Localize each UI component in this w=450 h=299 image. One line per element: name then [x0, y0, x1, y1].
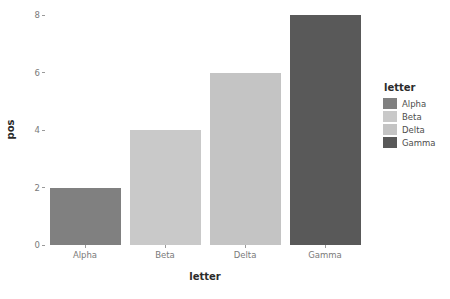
legend-swatch [383, 124, 397, 135]
y-axis-tick-label: 8 [34, 9, 40, 21]
bar [130, 130, 201, 245]
bar [210, 73, 281, 246]
y-axis-title-label: pos [6, 119, 17, 139]
bar [50, 188, 121, 246]
x-axis-tick-mark [325, 245, 326, 248]
x-axis-tick: Alpha [45, 245, 125, 260]
legend-items: AlphaBetaDeltaGamma [383, 97, 448, 149]
y-axis-tick: 8 [34, 9, 45, 21]
x-axis-tick-label: Alpha [45, 250, 125, 260]
y-axis-tick: 4 [34, 124, 45, 136]
x-axis-tick: Beta [125, 245, 205, 260]
bar-slot [210, 6, 281, 245]
legend-item: Gamma [383, 136, 448, 149]
bar-chart: pos 02468 AlphaBetaDeltaGamma letter let… [0, 0, 450, 299]
plot-area [45, 6, 365, 245]
bar-slot [290, 6, 361, 245]
legend-item-label: Gamma [402, 138, 436, 148]
x-axis-tick-mark [85, 245, 86, 248]
legend-title: letter [383, 82, 448, 93]
y-axis-tick: 2 [34, 182, 45, 194]
legend-swatch [383, 98, 397, 109]
y-axis-tick: 0 [34, 239, 45, 251]
x-axis: AlphaBetaDeltaGamma [45, 245, 365, 267]
y-axis-tick-label: 4 [34, 124, 40, 136]
x-axis-tick-mark [245, 245, 246, 248]
x-axis-tick: Gamma [285, 245, 365, 260]
legend-item-label: Alpha [402, 99, 426, 109]
y-axis-tick-label: 6 [34, 67, 40, 79]
legend-item: Beta [383, 110, 448, 123]
x-axis-tick-label: Beta [125, 250, 205, 260]
legend-item-label: Beta [402, 112, 422, 122]
legend: letter AlphaBetaDeltaGamma [383, 82, 448, 149]
legend-item: Delta [383, 123, 448, 136]
bar-slot [130, 6, 201, 245]
y-axis-title: pos [2, 0, 20, 258]
bar [290, 15, 361, 245]
legend-swatch [383, 111, 397, 122]
y-axis-tick-label: 0 [34, 239, 40, 251]
legend-swatch [383, 137, 397, 148]
y-axis: 02468 [20, 0, 45, 258]
legend-item: Alpha [383, 97, 448, 110]
x-axis-title-label: letter [189, 271, 220, 282]
bar-slot [50, 6, 121, 245]
x-axis-tick-label: Delta [205, 250, 285, 260]
x-axis-tick-label: Gamma [285, 250, 365, 260]
y-axis-tick: 6 [34, 67, 45, 79]
legend-item-label: Delta [402, 125, 425, 135]
x-axis-title: letter [45, 271, 365, 282]
y-axis-tick-label: 2 [34, 182, 40, 194]
x-axis-tick: Delta [205, 245, 285, 260]
x-axis-tick-mark [165, 245, 166, 248]
